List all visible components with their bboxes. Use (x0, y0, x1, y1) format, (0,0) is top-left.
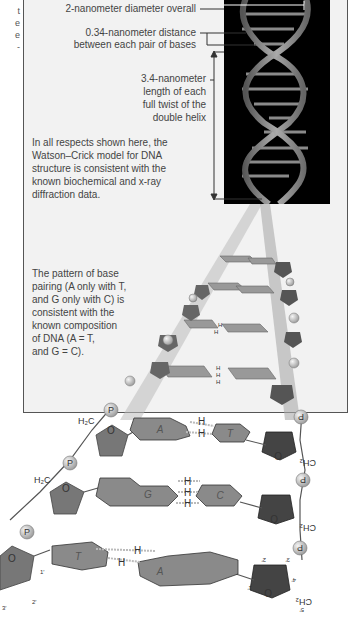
panel-h-bonds: H H H H H (214, 322, 222, 385)
dna-ladder: H H H H H P P P (0, 0, 353, 624)
oxygen-label: O (274, 450, 282, 461)
phosphate-label: P (24, 527, 30, 537)
h-label: H (134, 545, 141, 556)
oxygen-label: O (62, 483, 70, 494)
base-letter: C (216, 490, 224, 501)
oxygen-label: O (270, 513, 278, 524)
oxygen-label: O (8, 553, 16, 564)
base-letter: A (156, 424, 164, 435)
carbon-label: 1′ (247, 585, 252, 591)
base-letter: A (156, 566, 164, 577)
phosphate-label: P (67, 458, 73, 468)
carbon-label: 2′ (261, 557, 266, 563)
oxygen-label: O (107, 425, 115, 436)
carbon-label: 3′ (2, 605, 7, 611)
h-label: H (198, 416, 205, 427)
h-label: H (214, 329, 218, 335)
base-letter: T (227, 428, 234, 439)
h-label: H (216, 365, 220, 371)
h-label: H (216, 372, 220, 378)
h-label: H (118, 557, 125, 568)
oxygen-label: O (264, 587, 272, 598)
h2c-label: H₂C (78, 416, 95, 426)
phosphate-label: P (298, 412, 304, 422)
carbon-label: 2′ (32, 599, 37, 605)
h-label: H (216, 379, 220, 385)
base-A-right (138, 552, 238, 586)
carbon-label: 3′ (285, 557, 290, 563)
carbon-label: 1′ (40, 569, 45, 575)
ch2-label: CH₂ (295, 597, 312, 607)
phosphate-label: P (297, 543, 303, 553)
h2c-label: H₂C (34, 475, 51, 485)
h-label: H (218, 322, 222, 328)
ch2-label: CH₂ (299, 458, 316, 468)
h-label: H (184, 476, 191, 487)
base-letter: G (144, 489, 152, 500)
phosphate-label: P (300, 475, 306, 485)
base-G-left (96, 478, 178, 506)
ch2-label: CH₂ (299, 523, 316, 533)
h-label: H (184, 498, 191, 509)
base-letter: T (75, 551, 82, 562)
carbon-label: 4′ (291, 577, 296, 583)
h-label: H (198, 428, 205, 439)
h-label: H (184, 487, 191, 498)
phosphate-label: P (108, 405, 114, 415)
